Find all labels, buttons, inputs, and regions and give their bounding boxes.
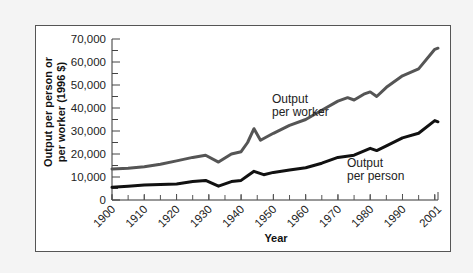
y-tick-label: 50,000 xyxy=(71,79,106,91)
x-tick-label: 1940 xyxy=(220,203,247,230)
x-tick-label: 1930 xyxy=(188,203,215,230)
x-tick-label: 1950 xyxy=(252,203,279,230)
x-tick-label: 1900 xyxy=(91,203,118,230)
y-tick-label: 60,000 xyxy=(71,56,106,68)
x-axis: 1900191019201930194019501960197019801990… xyxy=(91,192,444,230)
x-tick-label: 1960 xyxy=(284,203,311,230)
annotation-per-worker: Output xyxy=(272,92,309,106)
x-tick-label: 1990 xyxy=(381,203,408,230)
y-tick-label: 10,000 xyxy=(71,171,106,183)
y-axis: 010,00020,00030,00040,00050,00060,00070,… xyxy=(71,33,120,206)
y-axis-title-line2: per worker (1996 $) xyxy=(55,62,67,163)
x-tick-label: 1970 xyxy=(317,203,344,230)
y-tick-label: 30,000 xyxy=(71,125,106,137)
annotation-per-person-line2: per person xyxy=(347,169,404,183)
line-chart: 010,00020,00030,00040,00050,00060,00070,… xyxy=(0,0,473,273)
x-tick-label: 1920 xyxy=(155,203,182,230)
y-tick-label: 0 xyxy=(100,194,106,206)
x-tick-label: 1980 xyxy=(349,203,376,230)
y-axis-title: Output per person or xyxy=(42,56,54,167)
x-tick-label: 1910 xyxy=(123,203,150,230)
y-tick-label: 40,000 xyxy=(71,102,106,114)
x-tick-label: 2001 xyxy=(417,203,444,230)
annotation-per-worker-line2: per worker xyxy=(272,105,329,119)
y-tick-label: 20,000 xyxy=(71,148,106,160)
x-axis-title: Year xyxy=(264,232,288,244)
annotation-per-person: Output xyxy=(347,156,384,170)
y-tick-label: 70,000 xyxy=(71,33,106,45)
